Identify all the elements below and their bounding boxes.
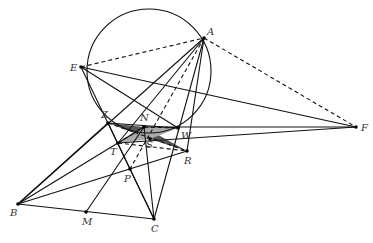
geometry-diagram: AEFZNWTSRPBMC: [0, 0, 373, 243]
point-Z: [106, 121, 110, 125]
label-T: T: [110, 146, 118, 157]
segment-EF: [81, 67, 356, 127]
label-N: N: [139, 112, 150, 123]
label-F: F: [360, 122, 369, 133]
label-W: W: [181, 130, 192, 141]
point-E: [79, 65, 83, 69]
dashed-segment-AP: [130, 38, 204, 169]
dashed-segment-EA: [81, 38, 204, 67]
point-M: [84, 210, 88, 214]
point-P: [128, 167, 132, 171]
dashed-segment-AF: [204, 38, 356, 127]
point-N: [142, 125, 146, 129]
dashed-segments: [81, 38, 356, 169]
point-R: [185, 149, 189, 153]
label-B: B: [9, 207, 17, 218]
points: [16, 36, 358, 221]
segment-BR: [18, 151, 187, 204]
label-S: S: [146, 139, 153, 150]
point-T: [116, 141, 120, 145]
segment-MN: [86, 127, 144, 212]
segment-BZ: [18, 123, 108, 204]
label-Z: Z: [100, 109, 109, 120]
solid-segments: [18, 38, 356, 219]
point-A: [202, 36, 206, 40]
label-C: C: [151, 223, 159, 234]
label-P: P: [123, 173, 131, 184]
label-M: M: [81, 216, 93, 227]
label-A: A: [206, 26, 214, 37]
label-E: E: [69, 62, 78, 73]
point-W: [176, 126, 180, 130]
point-B: [16, 202, 20, 206]
point-C: [152, 217, 156, 221]
label-R: R: [183, 155, 192, 166]
point-F: [354, 125, 358, 129]
